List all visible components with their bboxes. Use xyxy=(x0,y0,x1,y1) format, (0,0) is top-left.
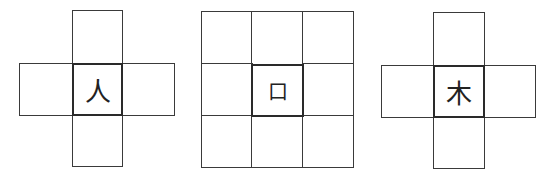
grid-cell-top xyxy=(72,10,123,65)
grid-cell-right xyxy=(483,65,536,118)
grid-cell xyxy=(251,115,304,168)
grid-cell xyxy=(302,115,354,168)
grid-cell xyxy=(201,11,253,65)
grid-cell xyxy=(201,63,253,117)
grid-cell xyxy=(201,115,253,168)
grid-cell-bottom xyxy=(433,116,485,169)
grid-cell xyxy=(302,63,354,117)
grid-cell-left xyxy=(19,63,74,116)
grid-cell-bottom xyxy=(72,114,123,167)
grid-cell-left xyxy=(381,65,435,118)
center-cell-character: 口 xyxy=(251,64,304,117)
grid-cell-top xyxy=(433,12,485,67)
grid-cell-right xyxy=(121,63,175,116)
grid-cell xyxy=(302,11,354,65)
center-cell-character: 人 xyxy=(72,63,123,116)
center-cell-character: 木 xyxy=(433,65,485,118)
grid-cell xyxy=(251,11,304,65)
